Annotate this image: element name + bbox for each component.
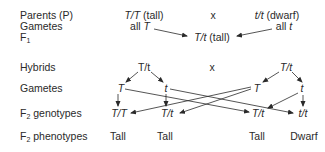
label-f1: F1 [20, 32, 30, 44]
arrow-right-hybrid-to-t [292, 72, 302, 82]
label-gametes-hybrid: Gametes [20, 83, 63, 94]
f2-genotype-2: T/t [161, 108, 173, 119]
parent-right: t/t (dwarf) [255, 10, 299, 21]
gamete-left-t: t [165, 83, 168, 94]
label-f2-phenotypes: F2 phenotypes [20, 131, 88, 143]
gamete-right-T: T [254, 83, 260, 94]
arrow-left-hybrid-to-t [151, 72, 163, 82]
arrow-rightt-to-Tt2 [268, 93, 298, 108]
f2-phenotype-3: Tall [249, 131, 265, 142]
f2-phenotype-1: Tall [110, 131, 126, 142]
arrow-right-gamete-to-f1 [237, 29, 272, 36]
gamete-left-T: T [118, 83, 124, 94]
parent-left: T/T (dwarf) (tall) [124, 10, 163, 21]
gamete-left-all: all T [130, 21, 150, 32]
cross-symbol-p: x [210, 10, 215, 21]
f2-phenotype-4: Dwarf [290, 131, 317, 142]
hybrid-left: T/t [138, 62, 150, 73]
gamete-right-all: all t [276, 21, 292, 32]
arrow-right-hybrid-to-T [263, 72, 279, 82]
arrow-left-gamete-to-f1 [154, 29, 187, 36]
label-hybrids: Hybrids [20, 62, 56, 73]
f2-genotype-1: T/T [111, 108, 127, 119]
f2-genotype-3: T/t [252, 108, 264, 119]
arrow-left-hybrid-to-T [126, 72, 138, 82]
f2-genotype-4: t/t [299, 108, 308, 119]
hybrid-right: T/t [280, 62, 292, 73]
label-gametes-p: Gametes [20, 21, 63, 32]
cross-symbol-hybrid: x [209, 62, 214, 73]
f1-genotype: T/t (tall) [194, 32, 230, 43]
label-f2-genotypes: F2 genotypes [20, 108, 82, 120]
f2-phenotype-2: Tall [157, 131, 173, 142]
gamete-right-t: t [301, 83, 304, 94]
label-parents: Parents (P) [20, 10, 73, 21]
